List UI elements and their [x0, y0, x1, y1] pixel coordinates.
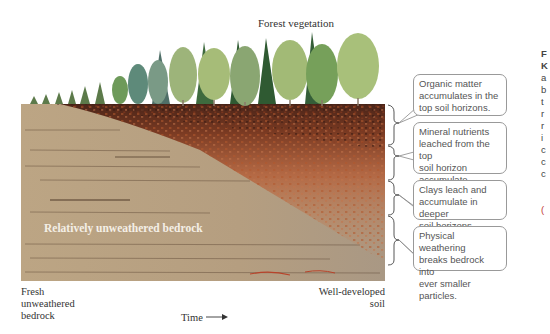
cut-text: c: [541, 168, 546, 180]
callout-line: accumulates in the: [419, 90, 501, 102]
cut-text: r: [541, 120, 544, 132]
callout-line: breaks bedrock into: [419, 254, 501, 278]
horizon-braces: [388, 105, 399, 265]
callout-line: Organic matter: [419, 78, 501, 90]
bedrock-label: Relatively unweathered bedrock: [44, 222, 203, 234]
cut-text: a: [541, 72, 546, 84]
callout-line: ever smaller particles.: [419, 278, 501, 302]
axis-label-fresh-bedrock: Fresh unweathered bedrock: [21, 286, 75, 322]
callout-line: leached from the top: [419, 138, 501, 162]
cut-text: K: [541, 60, 548, 72]
cut-text: i: [541, 132, 543, 144]
cut-text: c: [541, 156, 546, 168]
axis-line: Well-developed: [300, 286, 385, 298]
callout-line: Clays leach and: [419, 184, 501, 196]
callout-clays: Clays leach and accumulate in deeper soi…: [413, 180, 507, 220]
axis-line: Fresh: [21, 286, 75, 298]
cut-text: t: [541, 96, 544, 108]
time-arrow-head: [222, 314, 228, 320]
callout-mineral-nutrients: Mineral nutrients leached from the top s…: [413, 122, 507, 174]
cut-text: F: [541, 48, 547, 60]
callout-line: accumulate in deeper: [419, 196, 501, 220]
axis-line: bedrock: [21, 310, 75, 322]
callout-line: top soil horizons.: [419, 102, 501, 114]
callout-line: Physical weathering: [419, 230, 501, 254]
axis-line: soil: [300, 298, 385, 310]
callout-physical-weathering: Physical weathering breaks bedrock into …: [413, 226, 507, 271]
time-label: Time: [181, 312, 203, 323]
cut-text: b: [541, 84, 546, 96]
cut-text: (: [541, 204, 544, 216]
cut-text: r: [541, 108, 544, 120]
callout-line: Mineral nutrients: [419, 126, 501, 138]
soil-formation-diagram: Forest vegetation Relatively unweathered…: [0, 0, 550, 334]
axis-label-developed-soil: Well-developed soil: [300, 286, 385, 310]
axis-line: unweathered: [21, 298, 75, 310]
cut-text: c: [541, 144, 546, 156]
diagram-title: Forest vegetation: [258, 17, 334, 29]
forest-vegetation-trees: [30, 32, 379, 106]
callout-organic-matter: Organic matter accumulates in the top so…: [413, 74, 507, 116]
